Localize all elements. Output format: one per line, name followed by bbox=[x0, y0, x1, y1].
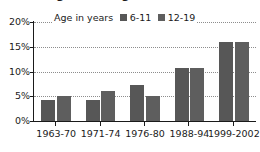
bar-series-container bbox=[34, 22, 256, 121]
y-tick-15 bbox=[30, 47, 34, 48]
bar-chart: Overweight among children, 1963–2002 Age… bbox=[0, 0, 260, 152]
y-tick-label-0: 0% bbox=[0, 116, 30, 126]
legend-caption: Age in years bbox=[54, 13, 113, 23]
x-tick-label: 1976-80 bbox=[125, 129, 165, 139]
bar bbox=[130, 85, 144, 121]
bar-group bbox=[130, 22, 160, 121]
x-tick bbox=[55, 122, 56, 126]
bar bbox=[86, 100, 100, 121]
y-tick-label-10: 10% bbox=[0, 67, 30, 77]
x-tick bbox=[188, 122, 189, 126]
x-tick bbox=[233, 122, 234, 126]
legend-item-6-11: 6-11 bbox=[120, 13, 151, 23]
y-tick-label-15: 15% bbox=[0, 42, 30, 52]
legend-swatch-12-19 bbox=[158, 14, 165, 21]
bar-group bbox=[41, 22, 71, 121]
legend-label-12-19: 12-19 bbox=[168, 13, 196, 23]
x-tick-label: 1963-70 bbox=[36, 129, 76, 139]
x-tick bbox=[144, 122, 145, 126]
plot-area bbox=[34, 22, 256, 121]
bar bbox=[146, 96, 160, 121]
bar-group bbox=[175, 22, 205, 121]
y-tick-label-20: 20% bbox=[0, 17, 30, 27]
y-axis-line bbox=[33, 21, 34, 122]
chart-legend: Age in years 6-11 12-19 bbox=[52, 13, 197, 23]
x-tick bbox=[100, 122, 101, 126]
bar-group bbox=[219, 22, 249, 121]
bar bbox=[235, 42, 249, 121]
bar bbox=[41, 100, 55, 121]
legend-item-12-19: 12-19 bbox=[158, 13, 195, 23]
chart-title: Overweight among children, 1963–2002 bbox=[0, 0, 260, 1]
y-tick-label-5: 5% bbox=[0, 92, 30, 102]
bar-group bbox=[86, 22, 116, 121]
bar bbox=[219, 42, 233, 121]
x-tick-label: 1988-94 bbox=[170, 129, 210, 139]
x-axis-line bbox=[33, 121, 256, 122]
x-tick-label: 1999-2002 bbox=[208, 129, 260, 139]
bar bbox=[175, 68, 189, 121]
x-axis-labels: 1963-701971-741976-801988-941999-2002 bbox=[0, 129, 260, 145]
bar bbox=[57, 96, 71, 121]
y-tick-10 bbox=[30, 72, 34, 73]
legend-label-6-11: 6-11 bbox=[130, 13, 152, 23]
bar bbox=[190, 68, 204, 121]
bar bbox=[101, 91, 115, 121]
y-tick-5 bbox=[30, 96, 34, 97]
legend-swatch-6-11 bbox=[120, 14, 127, 21]
x-tick-label: 1971-74 bbox=[81, 129, 121, 139]
y-tick-20 bbox=[30, 22, 34, 23]
